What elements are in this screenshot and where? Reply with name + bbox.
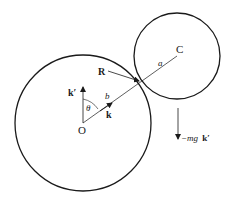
r-force-arrow	[108, 71, 139, 81]
label-r: R	[98, 66, 106, 77]
label-gravity-vec: k′	[202, 133, 210, 143]
label-a: a	[158, 58, 163, 68]
sphere-diagram: O C R a b θ k k′ −mg k′	[0, 0, 233, 199]
label-o: O	[78, 124, 86, 136]
label-theta: θ	[86, 103, 91, 113]
label-c: C	[176, 43, 183, 55]
label-gravity-prefix: −mg	[181, 133, 199, 143]
label-b: b	[105, 91, 110, 101]
label-k: k	[106, 109, 112, 120]
label-k-prime: k′	[68, 87, 77, 98]
label-gravity: −mg k′	[181, 133, 210, 143]
